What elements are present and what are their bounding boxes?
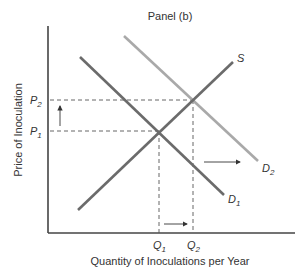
supply-curve — [78, 62, 233, 210]
x-axis-title: Quantity of Inoculations per Year — [91, 255, 250, 267]
p2-label: P2 — [30, 94, 42, 109]
q2-label: Q2 — [187, 239, 201, 254]
chart-title: Panel (b) — [148, 10, 193, 22]
demand-curve-d1 — [80, 57, 224, 195]
p1-label: P1 — [30, 125, 42, 140]
d2-label: D2 — [262, 162, 275, 177]
chart-canvas: Panel (b) S D2 D1 P2 P1 Q1 Q2 Quantity o… — [0, 0, 304, 270]
d1-label: D1 — [228, 193, 240, 208]
q1-label: Q1 — [153, 239, 166, 254]
supply-label: S — [237, 52, 245, 64]
y-axis-title: Price of Inoculation — [12, 83, 24, 177]
